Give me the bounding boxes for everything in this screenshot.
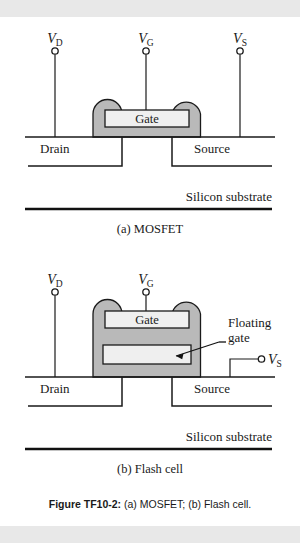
mosfet-substrate-label: Silicon substrate xyxy=(186,189,273,204)
mosfet-drain-label: Drain xyxy=(40,141,70,156)
figure-caption-text: (a) MOSFET; (b) Flash cell. xyxy=(124,498,251,510)
figure-caption-number: Figure TF10-2: xyxy=(49,498,121,510)
flash-cell-diagram: VD VG Gate Floating gate xyxy=(25,272,282,476)
flash-source-lead-line xyxy=(230,359,258,377)
floating-gate-label-line1: Floating xyxy=(228,315,272,330)
flash-gate-voltage-label: VG xyxy=(138,272,154,289)
flash-gate-terminal: VG xyxy=(138,272,154,312)
mosfet-diagram: VD VG VS Gate Drain xyxy=(25,31,275,236)
floating-gate-label-line2: gate xyxy=(228,330,250,345)
flash-source-terminal: VS xyxy=(230,352,282,378)
flash-drain-label: Drain xyxy=(40,381,70,396)
drain-voltage-label: VD xyxy=(47,31,63,48)
source-voltage-label: VS xyxy=(233,31,247,48)
figure-illustration: VD VG VS Gate Drain xyxy=(0,0,300,543)
mosfet-drain-terminal: VD xyxy=(47,31,63,137)
flash-gate-plate-label: Gate xyxy=(135,313,159,327)
mosfet-gate-plate-label: Gate xyxy=(135,112,159,126)
flash-floating-gate-plate xyxy=(103,345,191,364)
flash-gate-terminal-dot xyxy=(143,289,149,295)
gate-voltage-label: VG xyxy=(138,31,154,48)
flash-substrate-label: Silicon substrate xyxy=(186,429,273,444)
drain-terminal-dot xyxy=(52,48,58,54)
mosfet-source-terminal: VS xyxy=(233,31,247,137)
flash-source-label: Source xyxy=(194,381,230,396)
mosfet-gate-terminal: VG xyxy=(138,31,154,112)
flash-drain-terminal: VD xyxy=(47,272,63,377)
gate-terminal-dot xyxy=(143,48,149,54)
figure-caption: Figure TF10-2: (a) MOSFET; (b) Flash cel… xyxy=(0,498,300,510)
flash-drain-terminal-dot xyxy=(52,289,58,295)
figure-page: VD VG VS Gate Drain xyxy=(0,0,300,543)
mosfet-source-label: Source xyxy=(194,141,230,156)
mosfet-subcaption: (a) MOSFET xyxy=(117,222,184,236)
source-terminal-dot xyxy=(237,48,243,54)
flash-drain-voltage-label: VD xyxy=(47,272,63,289)
flash-source-voltage-label: VS xyxy=(268,352,282,369)
flash-source-terminal-dot xyxy=(258,356,264,362)
flash-subcaption: (b) Flash cell xyxy=(117,462,183,476)
